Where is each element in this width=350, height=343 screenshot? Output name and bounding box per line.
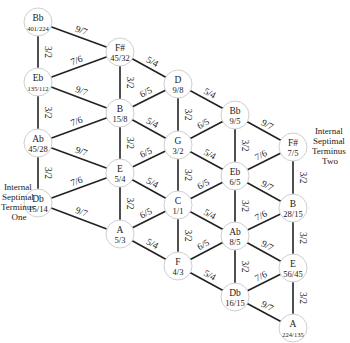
edge-ratio-label: 3/2	[183, 169, 193, 181]
lattice-node-d-9-8: D9/8	[164, 70, 192, 98]
node-note-name: F#	[288, 138, 298, 148]
lattice-node-f-4-3: F4/3	[164, 252, 192, 280]
node-note-name: E	[290, 259, 296, 269]
lattice-node-e-56-45: E56/45	[279, 254, 307, 282]
lattice-node-ab-45-28: Ab45/28	[24, 129, 52, 157]
node-ratio: 3/2	[173, 146, 184, 156]
edge-ratio-label: 3/2	[183, 229, 193, 241]
node-ratio: 5/4	[115, 174, 127, 184]
node-ratio: 9/5	[230, 116, 241, 126]
node-note-name: G	[175, 136, 182, 146]
node-ratio: 15/8	[112, 114, 127, 124]
edge-ratio-label: 3/2	[125, 197, 135, 209]
lattice-node-g-3-2: G3/2	[164, 131, 192, 159]
lattice-node-fsharp-45-32: F#45/32	[106, 38, 134, 66]
node-note-name: Ab	[229, 227, 241, 237]
lattice-node-bb-9-5: Bb9/5	[221, 101, 249, 129]
lattice-node-a-224-135: A224/135	[279, 314, 307, 342]
node-note-name: Eb	[230, 167, 241, 177]
node-ratio: 401/224	[27, 25, 49, 32]
lattice-node-b-15-8: B15/8	[106, 99, 134, 127]
lattice-node-eb-135-112: Eb135/112	[24, 68, 52, 96]
node-ratio: 1/1	[173, 206, 184, 216]
node-ratio: 28/15	[283, 209, 302, 219]
node-ratio: 8/5	[230, 237, 241, 247]
node-note-name: A	[117, 225, 124, 235]
edge-ratio-label: 3/2	[183, 108, 193, 120]
node-note-name: A	[290, 319, 297, 329]
edge-ratio-label: 3/2	[240, 260, 250, 272]
node-ratio: 6/5	[230, 177, 241, 187]
node-note-name: E	[117, 164, 123, 174]
edge-ratio-label: 3/2	[240, 139, 250, 151]
node-note-name: F#	[115, 43, 125, 53]
lattice-node-b-28-15: B28/15	[279, 194, 307, 222]
node-note-name: D	[175, 75, 182, 85]
node-note-name: Ab	[32, 134, 44, 144]
node-note-name: Bb	[32, 13, 43, 23]
node-note-name: Db	[229, 288, 241, 298]
edge-ratio-label: 3/2	[240, 200, 250, 212]
node-note-name: F	[175, 257, 180, 267]
edge-ratio-label: 3/2	[43, 106, 53, 118]
lattice-node-e-5-4: E5/4	[106, 159, 134, 187]
lattice-node-a-5-3: A5/3	[106, 220, 134, 248]
lattice-node-bb-401-224: Bb401/224	[24, 8, 52, 36]
lattice-nodes: Bb401/224F#45/32D9/8Bb9/5F#7/5Eb135/112B…	[24, 8, 307, 342]
lattice-node-eb-6-5: Eb6/5	[221, 162, 249, 190]
node-note-name: Eb	[33, 73, 44, 83]
node-ratio: 56/45	[283, 269, 302, 279]
node-ratio: 7/5	[288, 148, 299, 158]
lattice-node-fsharp-7-5: F#7/5	[279, 133, 307, 161]
node-note-name: B	[290, 199, 296, 209]
lattice-node-c-1-1: C1/1	[164, 191, 192, 219]
node-ratio: 135/112	[27, 85, 48, 92]
lattice-node-db-16-15: Db16/15	[221, 283, 249, 311]
node-ratio: 9/8	[173, 85, 184, 95]
lattice-node-ab-8-5: Ab8/5	[221, 222, 249, 250]
node-ratio: 224/135	[282, 331, 303, 338]
edge-ratio-label: 3/2	[43, 167, 53, 179]
node-note-name: B	[117, 104, 123, 114]
node-ratio: 4/3	[173, 267, 184, 277]
edge-ratio-label: 3/2	[125, 76, 135, 88]
edge-ratio-label: 3/2	[43, 46, 53, 58]
terminus-two-label: Internal Septimal Terminus Two	[312, 126, 348, 166]
node-ratio: 16/15	[225, 298, 244, 308]
edge-ratio-label: 3/2	[125, 137, 135, 149]
edge-ratio-label: 3/2	[298, 171, 308, 183]
node-note-name: C	[175, 196, 181, 206]
edge-ratio-label: 3/2	[298, 292, 308, 304]
node-note-name: Bb	[229, 106, 240, 116]
tonnetz-lattice: 9/75/45/49/79/75/45/49/79/75/45/49/79/75…	[0, 0, 350, 343]
node-ratio: 5/3	[115, 235, 126, 245]
node-ratio: 45/32	[110, 53, 129, 63]
lattice-edges	[38, 22, 293, 328]
edge-ratio-label: 3/2	[298, 232, 308, 244]
node-ratio: 45/28	[28, 144, 47, 154]
